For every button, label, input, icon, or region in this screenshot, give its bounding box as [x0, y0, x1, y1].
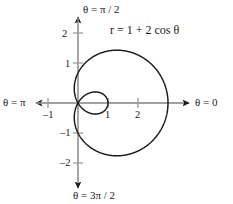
polar-plot-figure: θ = π / 2 θ = 3π / 2 θ = π θ = 0 r = 1 +…: [0, 0, 233, 204]
tick-label-x-1: 1: [105, 110, 110, 121]
tick-label-y-minus-1: –1: [60, 128, 71, 139]
tick-label-x-2: 2: [135, 110, 140, 121]
tick-label-y-1: 1: [65, 59, 70, 70]
tick-label-y-minus-2: –2: [60, 158, 71, 169]
axis-label-theta-zero: θ = 0: [195, 97, 217, 108]
axis-label-theta-3pi-over-2: θ = 3π / 2: [73, 190, 115, 201]
tick-label-x-minus-1: –1: [43, 110, 54, 121]
axis-label-theta-pi-over-2: θ = π / 2: [83, 4, 120, 15]
equation-annotation: r = 1 + 2 cos θ: [110, 24, 179, 36]
axis-label-theta-pi: θ = π: [3, 97, 26, 108]
tick-label-y-2: 2: [62, 29, 67, 40]
tick-marks: [48, 33, 138, 163]
